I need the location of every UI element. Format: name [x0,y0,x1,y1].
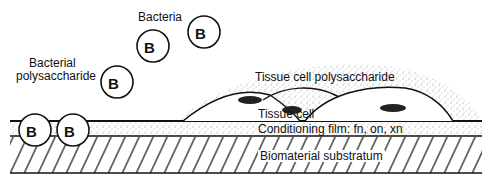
bacterium-letter: B [144,40,155,55]
biomaterial-colonization-diagram: B B B B B Bacteria Bacterial polysacchar… [0,0,487,188]
conditioning-film-label: Conditioning film: fn, on, xn [258,123,403,135]
nucleus [238,96,262,104]
bacterial-polysaccharide-label-1: Bacterial [29,57,76,69]
tissue-cell-polysaccharide-label: Tissue cell polysaccharide [255,71,395,83]
nucleus [380,104,406,112]
tissue-cell-label: Tissue cell [258,108,314,120]
bacterium-letter: B [26,124,37,139]
bacterium-letter: B [64,124,75,139]
biomaterial-substratum-label: Biomaterial substratum [258,150,385,162]
bacteria-label: Bacteria [138,11,182,23]
bacterium-letter: B [195,26,206,41]
bacterium-letter: B [108,76,119,91]
diagram-graphics [0,0,487,188]
bacterial-polysaccharide-label-2: polysaccharide [16,70,96,82]
